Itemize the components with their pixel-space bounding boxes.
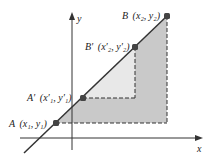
x-axis-label: x [196, 143, 202, 154]
y-axis-label: y [76, 13, 82, 24]
diagram-canvas: y x B (x₂, y₂) B′ (x′₂, y′₂) A′ (x′₁, y′… [0, 0, 208, 164]
point-A-prime [80, 95, 86, 101]
y-axis-arrow-icon [69, 12, 75, 20]
label-A: A (x₁, y₁) [8, 118, 48, 130]
label-A-prime: A′ (x′₁, y′₁) [26, 92, 72, 104]
label-B: B (x₂, y₂) [122, 10, 161, 22]
label-B-prime: B′ (x′₂, y′₂) [85, 41, 130, 53]
point-B [164, 13, 170, 19]
point-B-prime [132, 44, 138, 50]
point-A [53, 120, 59, 126]
x-axis-arrow-icon [195, 135, 203, 141]
